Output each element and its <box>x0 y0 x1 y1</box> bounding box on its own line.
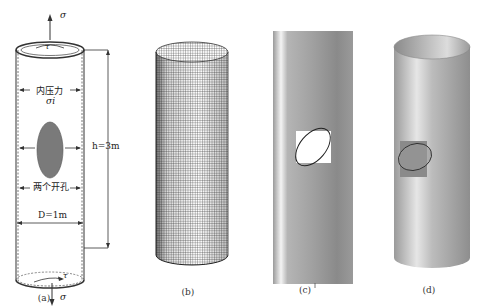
hole-cutout <box>296 131 331 163</box>
caption-a: (a) <box>24 293 64 303</box>
panel-a-schematic: σ τ 内压力 σi 两个开孔 h=3m D=1m τ σ (a) <box>0 0 130 308</box>
caption-c: (c) <box>285 285 325 295</box>
height-label: h=3m <box>92 141 120 151</box>
panel-d-cylinder: (d) <box>370 0 488 308</box>
tau-bottom-label: τ <box>63 271 67 280</box>
mesh-cylinder-drawing <box>130 0 240 308</box>
shell-hole-drawing <box>240 0 370 308</box>
shaded-cylinder-drawing <box>370 0 488 308</box>
two-holes-label: 两个开孔 <box>33 180 69 193</box>
caption-b: (b) <box>168 287 208 297</box>
caption-d: (d) <box>409 285 449 295</box>
cylinder-schematic-drawing <box>0 0 130 308</box>
sigma-top-label: σ <box>60 10 66 20</box>
panel-c-shell: (c) <box>240 0 370 308</box>
panel-b-mesh: (b) <box>130 0 240 308</box>
sigma-i-label: σi <box>46 96 55 106</box>
tau-top-label: τ <box>45 42 49 51</box>
diameter-label: D=1m <box>38 210 67 220</box>
